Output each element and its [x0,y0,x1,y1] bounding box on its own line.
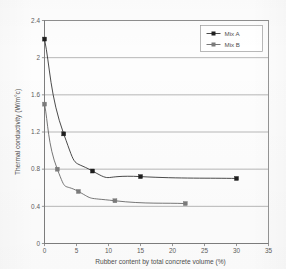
y-tick-label-5: 2 [36,54,40,61]
legend-label-0: Mix A [225,30,241,37]
chart-figure: 00.40.81.21.622.405101520253035Rubber co… [0,0,286,269]
x-tick-label-1: 5 [75,247,79,254]
y-axis-title: Thermal conductivity (W/m°c) [14,89,22,175]
y-tick-label-0: 0 [36,240,40,247]
data-point-mix-b-0 [43,102,47,106]
series-line-mix-a [45,39,237,178]
series-line-mix-b [45,104,186,203]
x-tick-label-7: 35 [265,247,273,254]
x-tick-label-3: 15 [137,247,145,254]
x-tick-label-2: 10 [105,247,113,254]
y-tick-label-2: 0.8 [31,165,40,172]
legend-marker-1 [212,43,216,47]
data-point-mix-b-1 [55,167,59,171]
x-tick-label-0: 0 [43,247,47,254]
legend-label-1: Mix B [225,41,240,48]
data-point-mix-b-3 [113,199,117,203]
data-point-mix-a-1 [62,132,66,136]
y-tick-label-6: 2.4 [31,17,40,24]
legend-marker-0 [212,32,216,36]
data-point-mix-b-2 [76,189,80,193]
x-tick-label-6: 30 [233,247,241,254]
data-point-mix-a-3 [139,175,143,179]
y-tick-label-4: 1.6 [31,91,40,98]
data-point-mix-a-2 [91,169,95,173]
x-tick-label-5: 25 [201,247,209,254]
y-tick-label-1: 0.4 [31,203,40,210]
thermal-conductivity-line-chart: 00.40.81.21.622.405101520253035Rubber co… [0,0,286,269]
data-point-mix-a-4 [235,176,239,180]
y-tick-label-3: 1.2 [31,128,40,135]
x-axis-title: Rubber content by total concrete volume … [95,258,225,266]
data-point-mix-a-0 [43,37,47,41]
data-point-mix-b-4 [183,202,187,206]
x-tick-label-4: 20 [169,247,177,254]
